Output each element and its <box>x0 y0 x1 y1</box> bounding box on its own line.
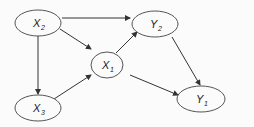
node-y2: Y 2 <box>132 11 178 37</box>
node-x3: X 3 <box>15 95 61 121</box>
edge-y2-y1 <box>172 37 200 85</box>
node-y1-subscript: 1 <box>204 100 208 107</box>
node-x1-label: X <box>101 59 110 71</box>
edge-x2-x1 <box>60 29 91 49</box>
diagram-svg: X 2 Y 2 X 1 X 3 Y 1 <box>0 0 254 127</box>
node-x3-subscript: 3 <box>41 109 45 116</box>
node-x3-label: X <box>32 102 41 114</box>
node-x2: X 2 <box>15 10 61 36</box>
edge-x1-y1 <box>130 75 178 95</box>
edge-x3-x1 <box>54 75 91 99</box>
node-y1-label: Y <box>196 93 204 105</box>
node-x2-label: X <box>32 17 41 29</box>
node-x2-subscript: 2 <box>40 24 45 31</box>
edge-x1-y2 <box>116 32 137 53</box>
node-y1: Y 1 <box>177 86 225 112</box>
dag-diagram: X 2 Y 2 X 1 X 3 Y 1 <box>0 0 254 127</box>
node-y2-label: Y <box>150 18 158 30</box>
node-y2-subscript: 2 <box>157 25 162 32</box>
node-x1-subscript: 1 <box>110 66 114 73</box>
node-x1: X 1 <box>91 52 123 78</box>
